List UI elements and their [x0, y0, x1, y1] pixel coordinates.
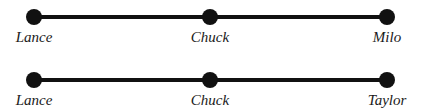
node-chuck [202, 72, 218, 88]
node-lance [26, 9, 42, 25]
chain-row-2: Lance Chuck Taylor [0, 56, 421, 112]
label-milo: Milo [373, 30, 401, 45]
edge-chuck-taylor [210, 78, 387, 82]
node-chuck [202, 9, 218, 25]
node-lance [26, 72, 42, 88]
label-lance: Lance [16, 30, 53, 45]
node-taylor [379, 72, 395, 88]
edge-chuck-milo [210, 15, 387, 19]
chain-row-1: Lance Chuck Milo [0, 0, 421, 56]
label-chuck: Chuck [191, 30, 229, 45]
label-lance: Lance [16, 93, 53, 108]
node-milo [379, 9, 395, 25]
edge-lance-chuck [34, 78, 210, 82]
label-chuck: Chuck [191, 93, 229, 108]
label-taylor: Taylor [368, 93, 407, 108]
edge-lance-chuck [34, 15, 210, 19]
